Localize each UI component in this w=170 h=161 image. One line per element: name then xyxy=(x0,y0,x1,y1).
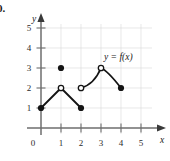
open-point-1-2 xyxy=(58,85,63,90)
x-tick-label-4: 4 xyxy=(119,138,124,148)
coordinate-plane-plot: y x 0 1 2 3 4 5 1 2 3 4 5 y = f(x) xyxy=(0,0,170,161)
x-tick-label-0: 0 xyxy=(31,138,36,148)
closed-point-0-1 xyxy=(38,105,44,111)
x-tick-label-3: 3 xyxy=(99,138,104,148)
y-tick-label-2: 2 xyxy=(27,83,32,93)
y-tick-label-5: 5 xyxy=(27,23,32,33)
closed-point-2-1 xyxy=(78,105,84,111)
x-tick-label-2: 2 xyxy=(79,138,84,148)
x-tick-label-1: 1 xyxy=(59,138,64,148)
y-tick-label-3: 3 xyxy=(27,63,32,73)
x-axis-label: x xyxy=(159,135,165,145)
axes xyxy=(27,19,160,135)
y-tick-label-4: 4 xyxy=(27,43,32,53)
y-axis-arrow-icon xyxy=(37,13,44,22)
closed-point-1-3 xyxy=(58,65,64,71)
curve-segment-2 xyxy=(61,88,81,108)
curve-segment-3 xyxy=(81,68,101,88)
closed-point-4-2 xyxy=(118,85,124,91)
curve-segment-1 xyxy=(41,88,61,108)
x-tick-label-5: 5 xyxy=(139,138,144,148)
open-point-2-2 xyxy=(78,85,83,90)
curve-segment-4 xyxy=(101,68,121,88)
grid-lines xyxy=(41,24,152,134)
function-annotation-label: y = f(x) xyxy=(103,52,133,63)
y-axis-label: y xyxy=(31,14,37,24)
open-point-3-3 xyxy=(98,65,103,70)
y-tick-label-1: 1 xyxy=(27,103,32,113)
figure-graph-of-f: 0. xyxy=(0,0,170,161)
x-axis-arrow-icon xyxy=(157,124,166,131)
